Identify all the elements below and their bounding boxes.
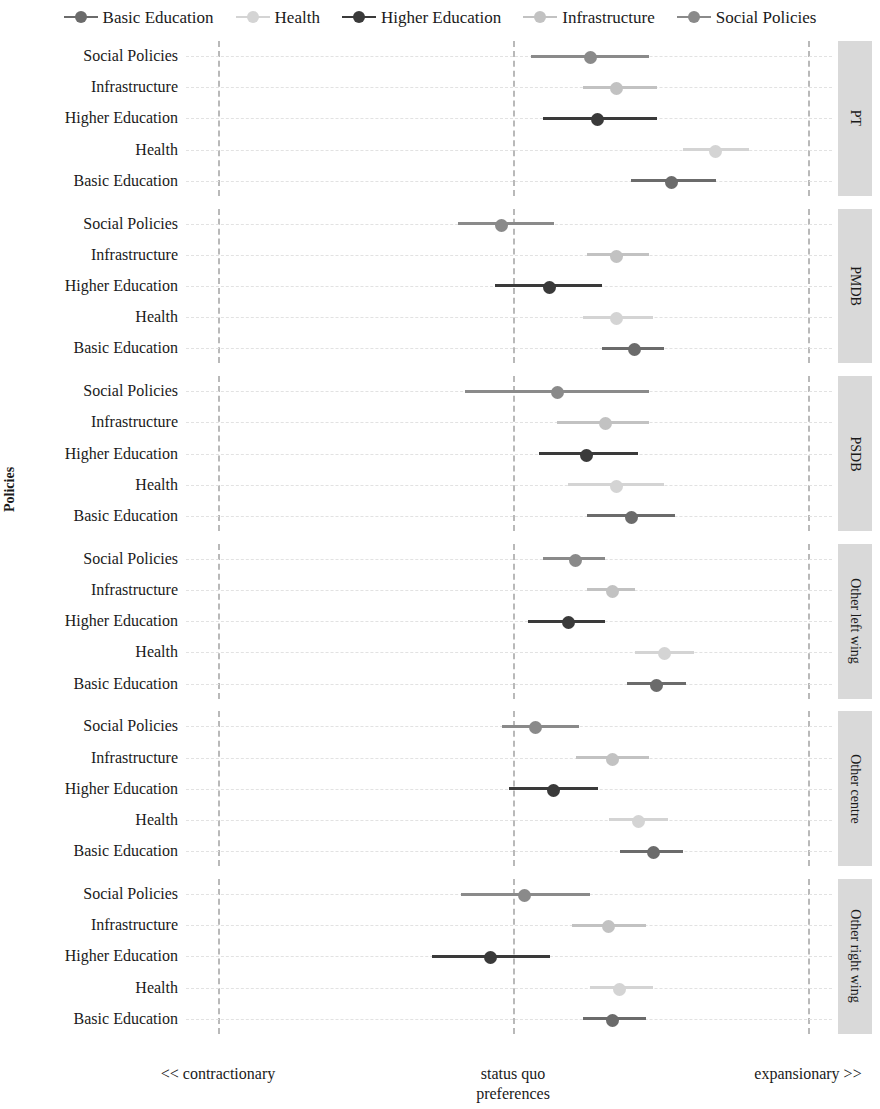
- panel-plot-area: [186, 711, 832, 866]
- estimate-dot: [484, 951, 497, 964]
- panel-plot-area: [186, 41, 832, 196]
- panel-strip: PMDB: [838, 209, 872, 364]
- policy-row-label: Health: [0, 142, 178, 158]
- x-axis-label-expansionary: expansionary >>: [668, 1064, 880, 1083]
- policy-row-label: Basic Education: [0, 173, 178, 189]
- panel-strip-label: PSDB: [847, 436, 863, 471]
- gridline-horizontal: [186, 590, 832, 591]
- estimate-dot: [591, 113, 604, 126]
- panel-strip-label: Other left wing: [847, 578, 863, 664]
- gridline-horizontal: [186, 820, 832, 821]
- chart-panel: Other centreSocial PoliciesInfrastructur…: [0, 711, 880, 866]
- policy-row-label: Health: [0, 812, 178, 828]
- gridline-horizontal: [186, 925, 832, 926]
- estimate-dot: [569, 554, 582, 567]
- estimate-dot: [709, 145, 722, 158]
- policy-row-label: Infrastructure: [0, 414, 178, 430]
- estimate-dot: [632, 815, 645, 828]
- x-axis-labels: << contractionary status quo preferences…: [0, 1060, 880, 1109]
- legend-item-label: Higher Education: [381, 9, 501, 26]
- chart-legend: Basic EducationHealthHigher EducationInf…: [0, 0, 880, 34]
- panel-plot-area: [186, 544, 832, 699]
- estimate-dot: [610, 480, 623, 493]
- estimate-dot: [529, 721, 542, 734]
- estimate-dot: [610, 82, 623, 95]
- chart-panel: Other left wingSocial PoliciesInfrastruc…: [0, 544, 880, 699]
- policy-row-label: Health: [0, 644, 178, 660]
- gridline-horizontal: [186, 516, 832, 517]
- policy-row-label: Infrastructure: [0, 582, 178, 598]
- estimate-dot: [606, 753, 619, 766]
- policy-row-label: Higher Education: [0, 110, 178, 126]
- x-axis-label-preferences: preferences: [413, 1084, 613, 1103]
- policy-row-label: Infrastructure: [0, 917, 178, 933]
- x-axis-label-contractionary: << contractionary: [78, 1064, 358, 1083]
- panel-strip: Other centre: [838, 711, 872, 866]
- policy-row-label: Social Policies: [0, 718, 178, 734]
- panel-strip-label: PMDB: [847, 266, 863, 306]
- gridline-horizontal: [186, 348, 832, 349]
- policy-row-label: Basic Education: [0, 843, 178, 859]
- policy-row-label: Health: [0, 309, 178, 325]
- gridline-horizontal: [186, 621, 832, 622]
- legend-item-label: Health: [275, 9, 320, 26]
- policy-row-label: Basic Education: [0, 1011, 178, 1027]
- chart-panel: PTSocial PoliciesInfrastructureHigher Ed…: [0, 41, 880, 196]
- policy-row-label: Social Policies: [0, 48, 178, 64]
- policy-row-label: Higher Education: [0, 781, 178, 797]
- estimate-dot: [650, 679, 663, 692]
- estimate-dot: [610, 250, 623, 263]
- policy-row-label: Basic Education: [0, 340, 178, 356]
- estimate-dot: [625, 511, 638, 524]
- chart-panel: PMDBSocial PoliciesInfrastructureHigher …: [0, 209, 880, 364]
- panel-strip: PT: [838, 41, 872, 196]
- gridline-horizontal: [186, 684, 832, 685]
- estimate-dot: [584, 51, 597, 64]
- estimate-dot: [665, 176, 678, 189]
- policy-row-label: Social Policies: [0, 383, 178, 399]
- estimate-dot: [628, 343, 641, 356]
- gridline-horizontal: [186, 652, 832, 653]
- gridline-horizontal: [186, 255, 832, 256]
- panel-plot-area: [186, 376, 832, 531]
- estimate-dot: [613, 983, 626, 996]
- estimate-dot: [610, 312, 623, 325]
- legend-item: Social Policies: [677, 9, 817, 26]
- policy-row-label: Higher Education: [0, 278, 178, 294]
- panel-strip-label: PT: [847, 110, 863, 126]
- policy-row-label: Infrastructure: [0, 750, 178, 766]
- gridline-horizontal: [186, 851, 832, 852]
- chart-plot-area: Policies PTSocial PoliciesInfrastructure…: [0, 34, 880, 1109]
- estimate-dot: [606, 1014, 619, 1027]
- chart-panel: Other right wingSocial PoliciesInfrastru…: [0, 879, 880, 1034]
- estimate-dot: [562, 616, 575, 629]
- policy-row-label: Higher Education: [0, 446, 178, 462]
- gridline-horizontal: [186, 485, 832, 486]
- estimate-dot: [647, 846, 660, 859]
- panel-strip-label: Other right wing: [847, 910, 863, 1003]
- gridline-horizontal: [186, 87, 832, 88]
- legend-swatch-icon: [236, 10, 270, 24]
- legend-swatch-icon: [677, 10, 711, 24]
- gridline-horizontal: [186, 56, 832, 57]
- policy-row-label: Social Policies: [0, 216, 178, 232]
- panel-plot-area: [186, 209, 832, 364]
- legend-item-label: Basic Education: [103, 9, 214, 26]
- panel-strip: PSDB: [838, 376, 872, 531]
- estimate-dot: [658, 647, 671, 660]
- legend-item: Higher Education: [342, 9, 501, 26]
- policy-row-label: Social Policies: [0, 551, 178, 567]
- gridline-horizontal: [186, 181, 832, 182]
- estimate-dot: [602, 920, 615, 933]
- panel-strip: Other right wing: [838, 879, 872, 1034]
- policy-row-label: Health: [0, 477, 178, 493]
- policy-row-label: Social Policies: [0, 886, 178, 902]
- legend-swatch-icon: [342, 10, 376, 24]
- legend-swatch-icon: [64, 10, 98, 24]
- gridline-horizontal: [186, 758, 832, 759]
- gridline-horizontal: [186, 454, 832, 455]
- estimate-dot: [580, 449, 593, 462]
- legend-item: Health: [236, 9, 320, 26]
- policy-row-label: Higher Education: [0, 948, 178, 964]
- policy-row-label: Basic Education: [0, 676, 178, 692]
